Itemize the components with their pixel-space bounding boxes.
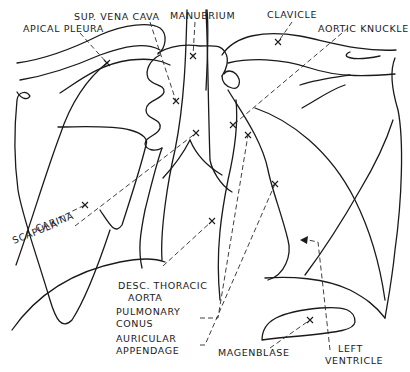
label-magenblase: MAGENBLASE xyxy=(218,347,290,358)
left-lung-border xyxy=(255,108,385,300)
left-ventricle-outline xyxy=(265,277,385,318)
trachea-left-wall xyxy=(162,10,187,260)
label-left-ventricle-line1: LEFT xyxy=(338,343,363,354)
leader-magenblase xyxy=(270,320,310,348)
chest-xray-diagram: SUP. VENA CAVA MANUBRIUM CLAVICLE APICAL… xyxy=(0,0,410,372)
aortic-knuckle-outline xyxy=(222,71,239,88)
heart-inner-line xyxy=(305,120,393,275)
label-scapula: SCAPULA xyxy=(11,218,60,246)
svc-wavy-border xyxy=(145,55,164,150)
label-pulmonary-conus-line1: PULMONARY xyxy=(116,306,180,317)
right-clavicle-lower xyxy=(20,46,160,80)
left-chest-wall xyxy=(385,58,402,318)
label-desc-aorta-line2: AORTA xyxy=(128,292,162,303)
left-hilar-line-2 xyxy=(302,85,345,108)
leader-auricular-appendage xyxy=(200,184,275,345)
label-aortic-knuckle: AORTIC KNUCKLE xyxy=(318,23,409,34)
manubrium-outline xyxy=(158,45,227,76)
left-clavicle-lower xyxy=(228,60,395,76)
left-clavicle-outline xyxy=(222,34,396,55)
label-sup-vena-cava: SUP. VENA CAVA xyxy=(74,11,160,22)
label-manubrium: MANUBRIUM xyxy=(170,10,235,21)
leader-desc-aorta xyxy=(163,221,212,266)
carina-right-bronchus xyxy=(190,140,222,175)
leader-carina xyxy=(75,133,196,226)
label-desc-aorta-line1: DESC. THORACIC xyxy=(118,280,207,291)
label-auricular-appendage-line2: APPENDAGE xyxy=(116,345,179,356)
trachea-right-wall xyxy=(206,10,232,192)
left-clavicle-end xyxy=(346,52,380,59)
leader-manubrium xyxy=(193,22,195,56)
descending-aorta-outline xyxy=(218,100,236,300)
leader-lines xyxy=(58,22,348,350)
label-apical-pleura: APICAL PLEURA xyxy=(23,23,104,34)
right-heart-border xyxy=(140,148,162,268)
label-pulmonary-conus-line2: CONUS xyxy=(116,318,153,329)
label-left-ventricle-line2: VENTRICLE xyxy=(325,355,383,366)
scapula-marker xyxy=(82,202,88,208)
carina-bifurcation xyxy=(163,140,190,178)
left-ventricle-arrowhead xyxy=(300,236,308,244)
magenblase-outline xyxy=(262,308,355,340)
leader-clavicle xyxy=(278,22,292,42)
label-auricular-appendage-line1: AURICULAR xyxy=(116,333,176,344)
label-clavicle: CLAVICLE xyxy=(267,9,317,20)
left-hilar-line-1 xyxy=(300,75,350,85)
label-group: SUP. VENA CAVA MANUBRIUM CLAVICLE APICAL… xyxy=(11,9,409,366)
